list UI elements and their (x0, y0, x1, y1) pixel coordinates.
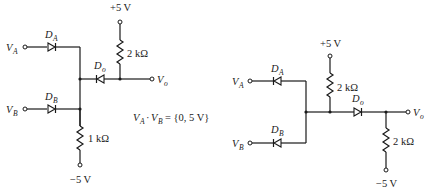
right-plus5v-label: +5 V (320, 38, 342, 49)
right-resistor-top-label: 2 kΩ (337, 82, 358, 93)
right-diode-do-icon (354, 108, 362, 116)
right-db-label: D (270, 124, 279, 135)
left-minus5v-terminal (78, 163, 82, 167)
left-do-sub: o (102, 65, 106, 74)
right-plus5v-terminal (328, 54, 332, 58)
left-da-label: D (44, 29, 53, 40)
right-vo-sub: o (420, 112, 424, 121)
right-input-va: V A D A (232, 63, 306, 90)
right-do-sub: o (360, 98, 364, 107)
left-vo-terminal (150, 77, 154, 81)
right-da-sub: A (278, 68, 284, 77)
left-bottom-supply: 1 kΩ −5 V (70, 109, 109, 185)
left-db-label: D (44, 91, 53, 102)
right-va-terminal (248, 79, 252, 83)
right-resistor-bottom-icon (383, 128, 389, 152)
right-input-vb: V B D B (232, 124, 306, 152)
svg-text:·: · (146, 112, 150, 123)
left-resistor-2k-icon (117, 40, 123, 64)
right-resistor-top-icon (327, 73, 333, 97)
svg-text:A: A (139, 117, 145, 126)
diagram-canvas: V A D A V B D B (0, 0, 430, 193)
left-circuit: V A D A V B D B (6, 2, 209, 185)
right-output: V o (386, 107, 424, 121)
left-resistor-top-label: 2 kΩ (127, 48, 148, 59)
svg-text:B: B (158, 117, 163, 126)
left-plus5v-terminal (118, 20, 122, 24)
right-db-sub: B (279, 129, 284, 138)
right-minus5v-terminal (384, 168, 388, 172)
left-resistor-1k-icon (77, 126, 83, 150)
left-vb-sub: B (13, 109, 18, 118)
right-diode-da-icon (274, 77, 282, 85)
left-db-sub: B (53, 96, 58, 105)
left-va-sub: A (12, 47, 18, 56)
right-resistor-bottom-label: 2 kΩ (393, 136, 414, 147)
right-diode-db-icon (274, 139, 282, 147)
right-vb-terminal (248, 141, 252, 145)
left-output: V o (120, 74, 168, 88)
left-top-supply: +5 V 2 kΩ (110, 2, 148, 79)
right-vb-sub: B (239, 143, 244, 152)
left-do-label: D (93, 60, 102, 71)
left-minus5v-label: −5 V (70, 174, 92, 185)
left-diode-do-icon (97, 75, 105, 83)
svg-text:= {0, 5 V}: = {0, 5 V} (165, 112, 209, 123)
right-circuit: V A D A V B D B (232, 38, 424, 189)
right-vo-terminal (406, 110, 410, 114)
left-input-va: V A D A (6, 29, 80, 56)
left-vo-sub: o (164, 79, 168, 88)
right-minus5v-label: −5 V (376, 178, 398, 189)
left-diode-da-icon (48, 43, 56, 51)
right-bottom-supply: 2 kΩ −5 V (376, 112, 414, 189)
right-va-sub: A (238, 81, 244, 90)
left-resistor-bottom-label: 1 kΩ (88, 133, 109, 144)
right-diode-do: D o (330, 93, 386, 116)
left-vb-terminal (23, 107, 27, 111)
left-input-vb: V B D B (6, 91, 80, 118)
left-diode-db-icon (48, 105, 56, 113)
left-plus5v-label: +5 V (110, 2, 132, 13)
left-va-terminal (23, 45, 27, 49)
logic-condition: V A · V B = {0, 5 V} (133, 112, 209, 126)
right-do-label: D (351, 93, 360, 104)
right-da-label: D (270, 63, 279, 74)
left-da-sub: A (52, 34, 58, 43)
left-diode-do: D o (80, 60, 120, 83)
